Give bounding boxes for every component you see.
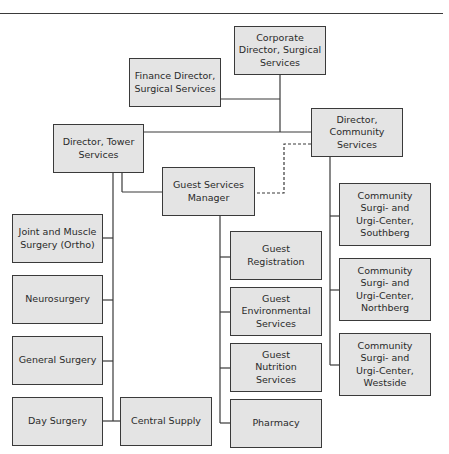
node-label: Community Surgi- and Urgi-Center, Westsi…: [356, 340, 414, 390]
node-label: Pharmacy: [252, 417, 299, 430]
node-label: Director, Tower Services: [63, 136, 135, 161]
node-guest-environmental: Guest Environmental Services: [230, 287, 322, 336]
node-label: General Surgery: [19, 354, 97, 367]
node-neurosurgery: Neurosurgery: [12, 275, 103, 324]
node-label: Guest Services Manager: [173, 179, 244, 204]
node-label: Community Surgi- and Urgi-Center, Northb…: [356, 265, 414, 315]
node-corporate-director: Corporate Director, Surgical Services: [234, 26, 326, 75]
node-director-community: Director, Community Services: [311, 108, 403, 157]
node-guest-nutrition: Guest Nutrition Services: [230, 343, 322, 392]
node-label: Community Surgi- and Urgi-Center, Southb…: [356, 190, 414, 240]
node-label: Finance Director, Surgical Services: [134, 70, 215, 95]
node-finance-director: Finance Director, Surgical Services: [129, 58, 221, 107]
node-label: Joint and Muscle Surgery (Ortho): [19, 226, 97, 251]
node-label: Guest Environmental Services: [241, 293, 310, 331]
node-label: Central Supply: [131, 415, 201, 428]
node-guest-registration: Guest Registration: [230, 231, 322, 280]
node-center-southberg: Community Surgi- and Urgi-Center, Southb…: [339, 183, 431, 246]
node-center-northberg: Community Surgi- and Urgi-Center, Northb…: [339, 258, 431, 321]
node-label: Day Surgery: [28, 415, 87, 428]
node-guest-services-manager: Guest Services Manager: [162, 167, 255, 216]
node-label: Corporate Director, Surgical Services: [239, 32, 321, 70]
node-director-tower: Director, Tower Services: [53, 124, 144, 173]
node-pharmacy: Pharmacy: [230, 399, 322, 448]
node-label: Guest Nutrition Services: [234, 349, 318, 387]
node-general-surgery: General Surgery: [12, 336, 103, 385]
node-day-surgery: Day Surgery: [12, 397, 103, 446]
node-label: Director, Community Services: [330, 114, 385, 152]
node-label: Neurosurgery: [25, 293, 90, 306]
node-central-supply: Central Supply: [120, 397, 212, 446]
node-joint-muscle: Joint and Muscle Surgery (Ortho): [12, 214, 103, 263]
node-center-westside: Community Surgi- and Urgi-Center, Westsi…: [339, 333, 431, 396]
node-label: Guest Registration: [247, 243, 304, 268]
